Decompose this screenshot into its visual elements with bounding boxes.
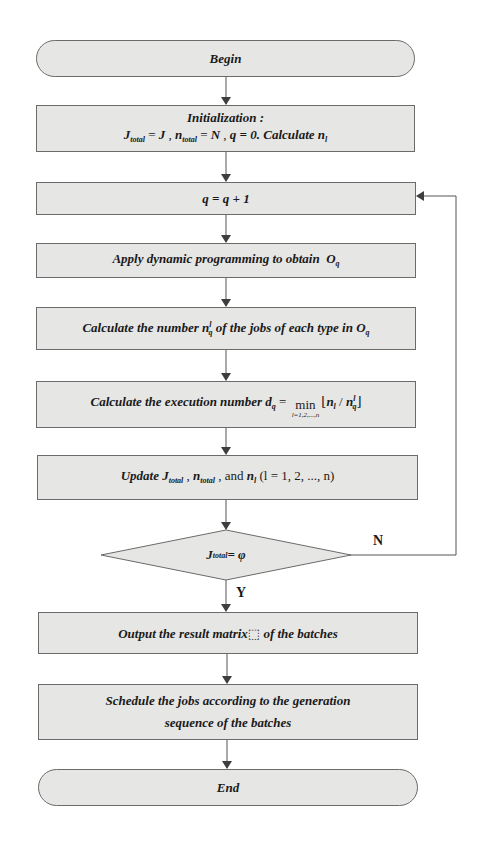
end-label: End bbox=[217, 779, 239, 796]
calc-exec-text: Calculate the execution number dq = minl… bbox=[90, 390, 361, 420]
init-formula: Jtotal = J , ntotal = N , q = 0. Calcula… bbox=[124, 126, 328, 148]
no-branch-label: N bbox=[373, 533, 383, 549]
increment-text: q = q + 1 bbox=[202, 190, 249, 207]
dynamic-programming-box: Apply dynamic programming to obtain Oq bbox=[36, 243, 416, 278]
init-title: Initialization : bbox=[187, 109, 264, 126]
decision-text: Jtotal = φ bbox=[101, 530, 351, 580]
schedule-box: Schedule the jobs according to the gener… bbox=[38, 684, 418, 740]
calculate-execution-box: Calculate the execution number dq = minl… bbox=[36, 381, 416, 428]
calculate-count-box: Calculate the number nlq of the jobs of … bbox=[36, 307, 416, 350]
calc-count-text: Calculate the number nlq of the jobs of … bbox=[82, 316, 369, 341]
begin-label: Begin bbox=[210, 50, 242, 67]
dp-text: Apply dynamic programming to obtain Oq bbox=[112, 250, 339, 272]
end-terminator: End bbox=[38, 769, 418, 806]
update-box: Update Jtotal , ntotal , and nl (l = 1, … bbox=[37, 455, 418, 500]
begin-terminator: Begin bbox=[36, 40, 415, 77]
yes-branch-label: Y bbox=[236, 585, 246, 601]
schedule-line-1: Schedule the jobs according to the gener… bbox=[106, 690, 351, 712]
increment-box: q = q + 1 bbox=[36, 182, 416, 215]
output-text: Output the result matrix⬚ of the batches bbox=[118, 625, 338, 642]
output-box: Output the result matrix⬚ of the batches bbox=[38, 612, 418, 654]
init-box: Initialization : Jtotal = J , ntotal = N… bbox=[36, 105, 415, 152]
schedule-line-2: sequence of the batches bbox=[165, 712, 292, 734]
update-text: Update Jtotal , ntotal , and nl (l = 1, … bbox=[121, 467, 335, 489]
